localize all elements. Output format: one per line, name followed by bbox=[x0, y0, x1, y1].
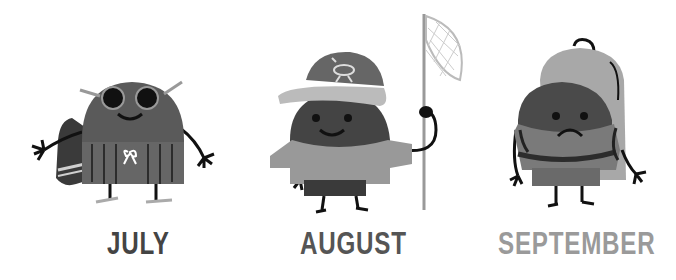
august-character-illustration bbox=[240, 0, 470, 220]
month-label-july: JULY bbox=[107, 226, 170, 262]
month-label-august: AUGUST bbox=[300, 226, 407, 262]
month-label-september: SEPTEMBER bbox=[498, 226, 655, 262]
september-character-illustration bbox=[470, 0, 676, 220]
july-character-illustration bbox=[0, 0, 240, 220]
